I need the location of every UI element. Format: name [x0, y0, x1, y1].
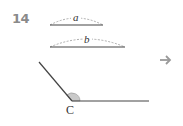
segment-a: a	[50, 11, 103, 25]
segment-a-label: a	[73, 11, 79, 23]
right-arrow-icon	[157, 53, 175, 67]
geometry-figure: a b C	[0, 0, 183, 126]
angle-c: C	[39, 62, 149, 117]
segment-b-label: b	[84, 33, 90, 45]
segment-b: b	[50, 33, 125, 47]
angle-ray-1	[39, 62, 72, 101]
vertex-label: C	[66, 103, 74, 117]
